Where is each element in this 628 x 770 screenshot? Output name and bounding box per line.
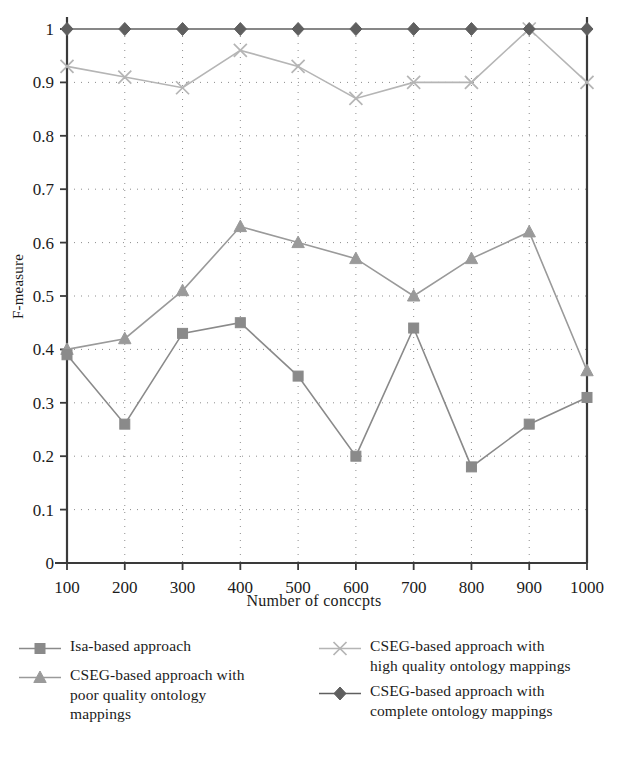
y-axis-tick-label: 0.9: [33, 73, 54, 92]
legend-key: [318, 683, 362, 704]
data-point-triangle: [407, 290, 419, 302]
y-axis-tick-label: 0.1: [33, 501, 54, 520]
data-point-diamond: [408, 23, 420, 36]
data-point-diamond: [61, 23, 73, 36]
legend-key: [318, 638, 362, 659]
plot-area: 00.10.20.30.40.50.60.70.80.9110020030040…: [0, 0, 628, 625]
data-point-diamond: [177, 23, 189, 36]
data-point-triangle: [581, 364, 593, 376]
data-point-triangle: [523, 225, 535, 237]
data-point-diamond: [292, 23, 304, 36]
y-axis-tick-label: 0.8: [33, 127, 54, 146]
data-point-triangle: [465, 252, 477, 264]
legend-marker-triangle: [18, 667, 62, 688]
y-axis-tick-label: 0.6: [33, 234, 54, 253]
data-point-square: [351, 451, 361, 461]
data-point-square: [524, 419, 534, 429]
data-point-triangle: [234, 220, 246, 232]
legend-key: [18, 667, 62, 688]
chart-legend: Isa-based approachCSEG-based approach wi…: [0, 636, 628, 770]
series-line: [67, 323, 587, 467]
legend-item[interactable]: CSEG-based approach with complete ontolo…: [318, 681, 623, 720]
legend-marker-diamond: [318, 683, 362, 704]
data-point-triangle: [119, 332, 131, 344]
data-point-diamond: [581, 23, 593, 36]
data-point-diamond: [350, 23, 362, 36]
data-point-square: [235, 318, 245, 328]
data-point-square: [120, 419, 130, 429]
data-point-diamond: [119, 23, 131, 36]
data-point-square: [293, 371, 303, 381]
y-axis-tick-label: 1: [46, 20, 55, 39]
series-line: [67, 29, 587, 98]
legend-item-label: CSEG-based approach with complete ontolo…: [370, 681, 553, 720]
legend-item[interactable]: Isa-based approach: [18, 636, 308, 659]
legend-marker-square: [18, 638, 62, 659]
x-axis-title: Number of conccpts: [0, 592, 628, 610]
plot-svg: 00.10.20.30.40.50.60.70.80.9110020030040…: [0, 0, 628, 625]
legend-item[interactable]: CSEG-based approach with high quality on…: [318, 636, 623, 675]
y-axis-tick-label: 0.2: [33, 447, 54, 466]
y-axis-tick-label: 0: [46, 554, 55, 573]
legend-square-icon: [35, 644, 45, 654]
data-point-square: [582, 392, 592, 402]
y-axis-tick-label: 0.7: [33, 180, 55, 199]
data-point-square: [409, 323, 419, 333]
chart-figure: 00.10.20.30.40.50.60.70.80.9110020030040…: [0, 0, 628, 770]
data-point-diamond: [234, 23, 246, 36]
data-point-square: [466, 462, 476, 472]
legend-item[interactable]: CSEG-based approach with poor quality on…: [18, 665, 308, 724]
y-axis-tick-label: 0.3: [33, 394, 54, 413]
data-point-diamond: [465, 23, 477, 36]
legend-item-label: CSEG-based approach with poor quality on…: [70, 665, 245, 724]
data-point-square: [62, 350, 72, 360]
legend-item-label: CSEG-based approach with high quality on…: [370, 636, 571, 675]
legend-column-left: Isa-based approachCSEG-based approach wi…: [18, 636, 308, 730]
legend-item-label: Isa-based approach: [70, 636, 191, 656]
legend-key: [18, 638, 62, 659]
legend-marker-cross: [318, 638, 362, 659]
y-axis-tick-label: 0.5: [33, 287, 54, 306]
legend-column-right: CSEG-based approach with high quality on…: [318, 636, 623, 726]
data-point-square: [178, 328, 188, 338]
y-axis-tick-label: 0.4: [33, 340, 55, 359]
y-axis-title: F-measure: [10, 207, 27, 367]
legend-diamond-icon: [334, 687, 346, 700]
